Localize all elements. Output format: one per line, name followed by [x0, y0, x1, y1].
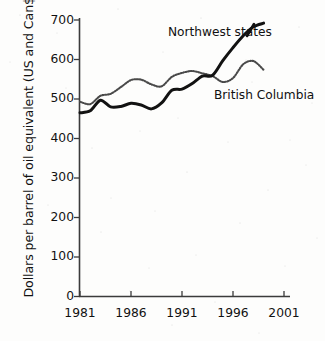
- series-annotation-northwest-states: Northwest states: [168, 25, 272, 39]
- plot-area: [0, 0, 325, 341]
- series-annotation-british-columbia: British Columbia: [214, 88, 314, 102]
- axis-lines: [74, 18, 290, 297]
- chart-figure: Dollars per barrel of oil equivalent (US…: [0, 0, 325, 341]
